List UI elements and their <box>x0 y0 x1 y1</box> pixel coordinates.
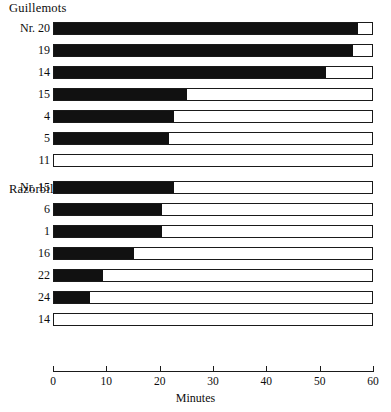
bar-row: 14 <box>0 313 391 328</box>
bar-track <box>53 132 373 145</box>
bar-row-label-wrap: 22 <box>0 269 50 284</box>
axis-title-minutes: Minutes <box>0 391 391 406</box>
bar-row: Nr. 15 <box>0 181 391 196</box>
bar-fill <box>54 111 174 122</box>
axis-line <box>53 371 373 372</box>
bar-track <box>53 225 373 238</box>
bar-fill <box>54 292 90 303</box>
axis-tick-label: 10 <box>91 375 121 387</box>
axis-tick-label: 50 <box>305 375 335 387</box>
axis-tick-label: 30 <box>198 375 228 387</box>
bar-row: 6 <box>0 203 391 218</box>
bar-row-label: 5 <box>0 131 50 146</box>
bar-row-label-wrap: 1 <box>0 225 50 240</box>
bar-row: 14 <box>0 66 391 81</box>
axis-tick <box>320 366 321 372</box>
chart-canvas: Guillemots Razorbills Nr. 201914154511Nr… <box>0 0 391 412</box>
bar-row: 22 <box>0 269 391 284</box>
bar-row-label: 1 <box>0 224 50 239</box>
bar-fill <box>54 133 169 144</box>
axis-tick <box>160 366 161 372</box>
bar-row-label-wrap: 16 <box>0 247 50 262</box>
bar-row-label: 14 <box>0 312 50 327</box>
axis-tick <box>266 366 267 372</box>
axis-tick-label: 60 <box>358 375 388 387</box>
bar-row-label: Nr. 15 <box>0 180 50 195</box>
bar-track <box>53 154 373 167</box>
bar-fill <box>54 45 353 56</box>
bar-row-label-wrap: 6 <box>0 203 50 218</box>
axis-tick <box>213 366 214 372</box>
axis-tick-label: 20 <box>145 375 175 387</box>
bar-row: 5 <box>0 132 391 147</box>
bar-row-label-wrap: 24 <box>0 291 50 306</box>
bar-row-label-wrap: Nr. 15 <box>0 181 50 196</box>
bar-row: 19 <box>0 44 391 59</box>
axis-tick <box>53 366 54 372</box>
bar-track <box>53 247 373 260</box>
bar-row-label-wrap: 5 <box>0 132 50 147</box>
bar-row-label-wrap: 4 <box>0 110 50 125</box>
bar-row: 15 <box>0 88 391 103</box>
bar-row: 1 <box>0 225 391 240</box>
bar-track <box>53 22 373 35</box>
bar-row-label-wrap: 14 <box>0 66 50 81</box>
bar-row-label: 16 <box>0 246 50 261</box>
bar-track <box>53 181 373 194</box>
bar-row-label: 11 <box>0 153 50 168</box>
bar-track <box>53 269 373 282</box>
bar-row-label: 24 <box>0 290 50 305</box>
bar-fill <box>54 23 358 34</box>
bar-row-label: 22 <box>0 268 50 283</box>
bar-row-label-wrap: Nr. 20 <box>0 22 50 37</box>
group-title-guillemots: Guillemots <box>9 1 67 16</box>
bar-row: 4 <box>0 110 391 125</box>
bar-row-label-wrap: 19 <box>0 44 50 59</box>
bar-row: 11 <box>0 154 391 169</box>
bar-row-label-wrap: 15 <box>0 88 50 103</box>
bar-fill <box>54 89 187 100</box>
bar-fill <box>54 270 103 281</box>
bar-fill <box>54 182 174 193</box>
bar-row-label-wrap: 14 <box>0 313 50 328</box>
bar-row-label-wrap: 11 <box>0 154 50 169</box>
bar-track <box>53 66 373 79</box>
bar-track <box>53 203 373 216</box>
bar-row: Nr. 20 <box>0 22 391 37</box>
axis-tick <box>106 366 107 372</box>
bar-row-label: 19 <box>0 43 50 58</box>
axis-tick-label: 40 <box>251 375 281 387</box>
bar-track <box>53 44 373 57</box>
bar-track <box>53 110 373 123</box>
bar-fill <box>54 67 326 78</box>
bar-track <box>53 88 373 101</box>
bar-track <box>53 291 373 304</box>
bar-fill <box>54 248 134 259</box>
bar-fill <box>54 226 162 237</box>
axis-tick <box>373 366 374 372</box>
bar-row-label: 14 <box>0 65 50 80</box>
bar-row: 16 <box>0 247 391 262</box>
bar-row: 24 <box>0 291 391 306</box>
bar-row-label: 6 <box>0 202 50 217</box>
bar-fill <box>54 204 162 215</box>
bar-track <box>53 313 373 326</box>
bar-row-label: 4 <box>0 109 50 124</box>
axis-tick-label: 0 <box>38 375 68 387</box>
bar-row-label: Nr. 20 <box>0 21 50 36</box>
bar-row-label: 15 <box>0 87 50 102</box>
